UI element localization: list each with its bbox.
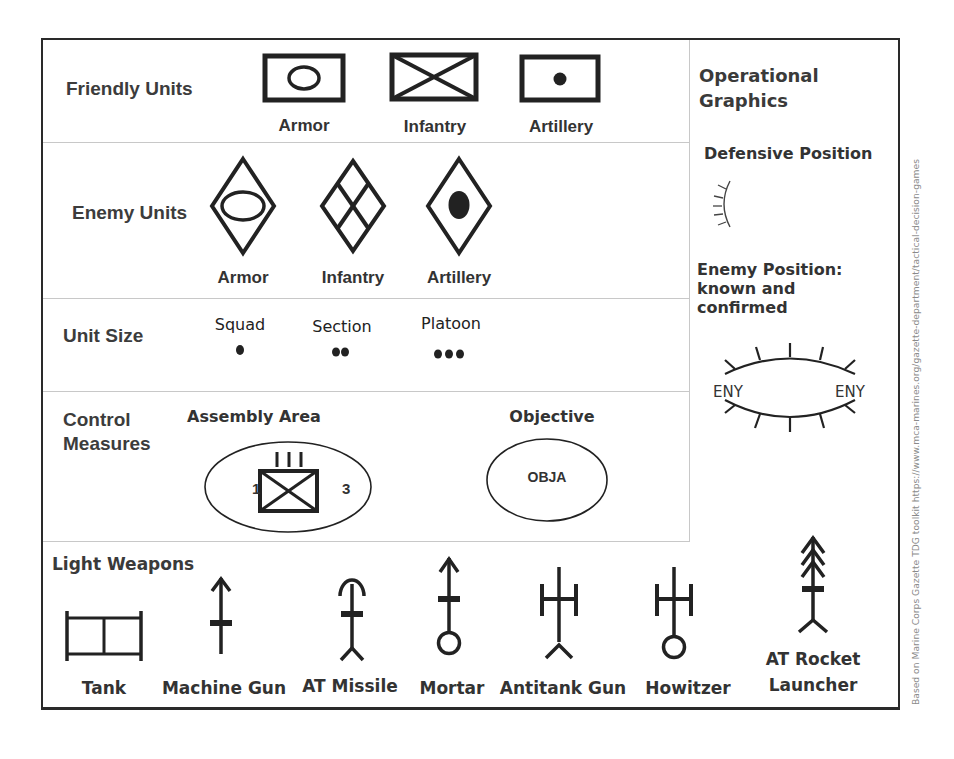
friendly-artillery-icon bbox=[519, 54, 601, 103]
at-rocket-launcher-icon bbox=[796, 534, 830, 634]
enemy-infantry-label: Infantry bbox=[322, 268, 384, 288]
friendly-artillery-label: Artillery bbox=[529, 117, 593, 137]
row-divider bbox=[43, 298, 689, 299]
tank-icon bbox=[64, 609, 144, 663]
antitank-gun-icon bbox=[539, 565, 579, 660]
friendly-armor-label: Armor bbox=[278, 116, 329, 136]
tank-label: Tank bbox=[82, 678, 126, 698]
at-rocket-launcher-label: AT Rocket Launcher bbox=[766, 646, 861, 698]
source-credit: Based on Marine Corps Gazette TDG toolki… bbox=[910, 159, 921, 705]
friendly-armor-icon bbox=[262, 53, 346, 103]
enemy-units-label: Enemy Units bbox=[72, 201, 187, 225]
mortar-icon bbox=[434, 555, 464, 657]
unit-size-label: Unit Size bbox=[63, 324, 143, 348]
howitzer-icon bbox=[654, 565, 694, 660]
enemy-armor-icon bbox=[209, 156, 277, 256]
platoon-label: Platoon bbox=[421, 314, 481, 333]
light-weapons-label: Light Weapons bbox=[52, 552, 194, 577]
friendly-infantry-label: Infantry bbox=[404, 117, 466, 137]
antitank-gun-label: Antitank Gun bbox=[500, 678, 626, 698]
enemy-position-label: Enemy Position: known and confirmed bbox=[697, 260, 842, 317]
section-dots-icon bbox=[330, 346, 352, 358]
enemy-artillery-icon bbox=[425, 156, 493, 256]
objective-title: Objective bbox=[509, 407, 594, 426]
row-divider bbox=[43, 541, 689, 542]
column-divider bbox=[689, 40, 690, 542]
friendly-infantry-icon bbox=[389, 52, 479, 102]
eny-left-label: ENY bbox=[713, 383, 743, 401]
enemy-artillery-label: Artillery bbox=[427, 268, 491, 288]
squad-label: Squad bbox=[215, 315, 265, 334]
at-missile-label: AT Missile bbox=[302, 676, 398, 696]
control-measures-label: Control Measures bbox=[63, 408, 151, 456]
enemy-armor-label: Armor bbox=[217, 268, 268, 288]
at-missile-icon bbox=[336, 566, 368, 662]
machine-gun-icon bbox=[209, 574, 233, 656]
squad-dots-icon bbox=[234, 343, 246, 357]
howitzer-label: Howitzer bbox=[645, 678, 730, 698]
row-divider bbox=[43, 142, 689, 143]
enemy-infantry-icon bbox=[319, 158, 387, 254]
defensive-position-icon bbox=[706, 178, 746, 230]
machine-gun-label: Machine Gun bbox=[162, 678, 286, 698]
operational-graphics-title: Operational Graphics bbox=[699, 63, 819, 113]
assembly-area-title: Assembly Area bbox=[187, 407, 321, 426]
row-divider bbox=[43, 391, 689, 392]
eny-right-label: ENY bbox=[835, 383, 865, 401]
mortar-label: Mortar bbox=[420, 678, 485, 698]
objective-text: OBJA bbox=[528, 469, 567, 485]
section-label: Section bbox=[312, 317, 371, 336]
defensive-position-label: Defensive Position bbox=[704, 144, 872, 163]
platoon-dots-icon bbox=[432, 348, 468, 360]
assembly-area-left-number: 1 bbox=[252, 480, 260, 497]
friendly-units-label: Friendly Units bbox=[66, 77, 193, 101]
assembly-area-right-number: 3 bbox=[342, 480, 350, 497]
